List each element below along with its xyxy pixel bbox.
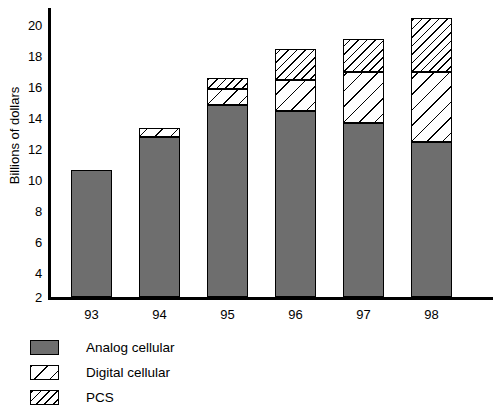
legend-item-analog-cellular: Analog cellular: [30, 336, 290, 358]
y-tick-20: 20: [16, 19, 42, 32]
chart-legend: Analog cellular Digital cellular PCS: [30, 336, 290, 409]
bar-series-container: [48, 8, 493, 300]
bar-segment-analog-96: [275, 111, 316, 297]
bar-segment-digital-95: [207, 89, 248, 105]
y-tick-4: 4: [16, 267, 42, 280]
bar-segment-analog-98: [411, 142, 452, 297]
bar-segment-pcs-98: [411, 18, 452, 72]
bar-segment-digital-94: [139, 128, 180, 137]
x-tick-98: 98: [411, 307, 452, 322]
legend-swatch-digital-cellular: [30, 365, 59, 380]
bar-segment-analog-97: [343, 123, 384, 297]
bar-segment-pcs-97: [343, 39, 384, 72]
x-tick-97: 97: [343, 307, 384, 322]
legend-label-analog-cellular: Analog cellular: [86, 340, 175, 355]
bar-segment-analog-93: [71, 170, 112, 297]
y-tick-6: 6: [16, 236, 42, 249]
legend-label-digital-cellular: Digital cellular: [86, 365, 170, 380]
y-tick-2: 2: [16, 291, 42, 304]
bar-segment-pcs-95: [207, 78, 248, 89]
bar-segment-pcs-96: [275, 49, 316, 80]
bar-segment-digital-98: [411, 72, 452, 142]
plot-area: 93 94 95 96 97 98: [48, 8, 493, 300]
y-tick-18: 18: [16, 50, 42, 63]
bar-segment-digital-96: [275, 80, 316, 111]
legend-item-digital-cellular: Digital cellular: [30, 361, 290, 383]
y-tick-8: 8: [16, 205, 42, 218]
x-tick-93: 93: [71, 307, 112, 322]
legend-swatch-pcs: [30, 390, 59, 405]
x-tick-94: 94: [139, 307, 180, 322]
y-axis-title: Billions of dollars: [7, 66, 22, 206]
bar-segment-digital-97: [343, 72, 384, 123]
legend-swatch-analog-cellular: [30, 340, 59, 355]
legend-label-pcs: PCS: [86, 390, 114, 405]
x-tick-96: 96: [275, 307, 316, 322]
bar-segment-analog-94: [139, 137, 180, 297]
bar-segment-analog-95: [207, 105, 248, 297]
x-tick-95: 95: [207, 307, 248, 322]
chart-figure: 20 18 16 14 12 10 8 6 4 2 Billions of do…: [0, 0, 493, 409]
legend-item-pcs: PCS: [30, 386, 290, 408]
